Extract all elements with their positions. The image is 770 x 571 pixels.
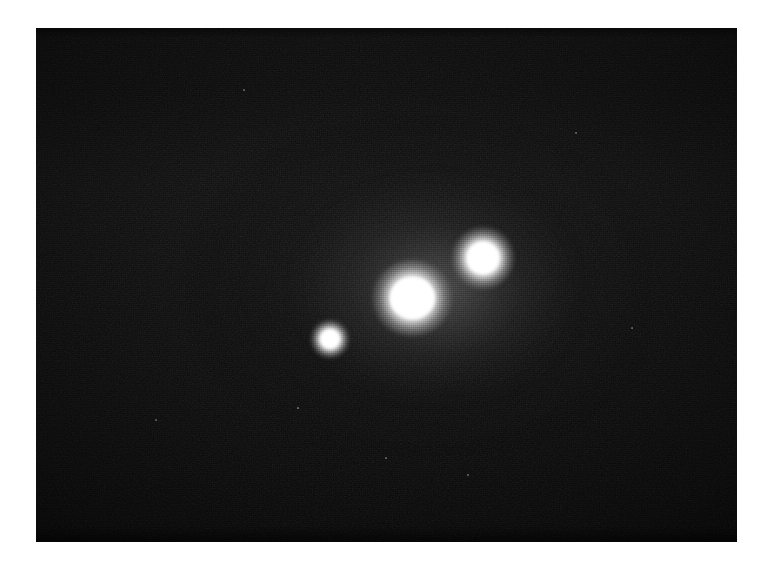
figure-page — [0, 0, 770, 571]
astronomical-plate — [36, 28, 737, 542]
dark-sky-background — [36, 28, 737, 542]
